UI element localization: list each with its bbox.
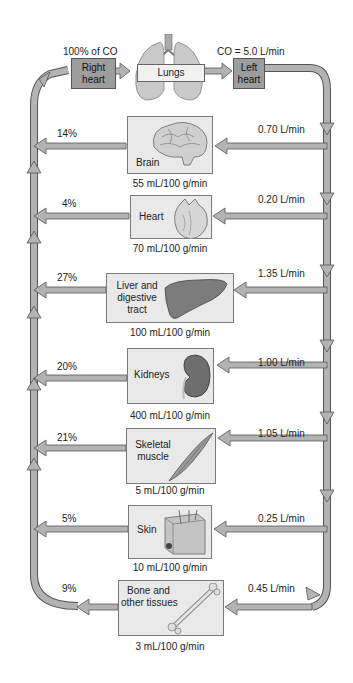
liver-label-line1: Liver and: [111, 280, 163, 292]
skin-label: Skin: [137, 524, 156, 536]
muscle-label: Skeletal muscle: [131, 439, 175, 463]
liver-perfusion: 100 mL/100 g/min: [100, 327, 240, 339]
right-heart-label-line2: heart: [82, 74, 105, 86]
bone-flow: 0.45 L/min: [248, 583, 295, 595]
heart-percent: 4%: [62, 198, 76, 210]
heart-flow: 0.20 L/min: [258, 194, 305, 206]
lungs-box: Lungs: [137, 64, 205, 82]
left-heart-caption: CO = 5.0 L/min: [217, 46, 285, 58]
heart-label: Heart: [139, 211, 163, 223]
right-heart-caption: 100% of CO: [63, 46, 117, 58]
left-heart-box: Left heart: [233, 58, 265, 89]
skin-perfusion: 10 mL/100 g/min: [100, 562, 240, 574]
liver-percent: 27%: [57, 272, 77, 284]
brain-perfusion: 55 mL/100 g/min: [100, 178, 240, 190]
liver-label-line2: digestive: [111, 292, 163, 304]
bone-label-line2: other tissues: [121, 597, 178, 609]
liver-label: Liver and digestive tract: [111, 280, 163, 316]
skin-box: Skin: [128, 505, 212, 559]
bone-box: Bone and other tissues: [118, 580, 224, 636]
bone-label-line1: Bone and: [121, 585, 178, 597]
liver-box: Liver and digestive tract: [106, 273, 234, 323]
liver-flow: 1.35 L/min: [258, 268, 305, 280]
bone-percent: 9%: [62, 583, 76, 595]
kidneys-perfusion: 400 mL/100 g/min: [100, 410, 240, 422]
brain-percent: 14%: [57, 128, 77, 140]
kidneys-label: Kidneys: [134, 369, 170, 381]
skin-percent: 5%: [62, 513, 76, 525]
kidneys-box: Kidneys: [127, 348, 214, 404]
muscle-label-line1: Skeletal: [131, 439, 175, 451]
brain-label: Brain: [136, 157, 159, 169]
brain-box: Brain: [127, 116, 213, 174]
bone-label: Bone and other tissues: [121, 585, 178, 609]
muscle-percent: 21%: [57, 432, 77, 444]
right-heart-box: Right heart: [71, 58, 116, 89]
bone-perfusion: 3 mL/100 g/min: [100, 641, 240, 653]
kidneys-flow: 1.00 L/min: [258, 357, 305, 369]
left-heart-label-line2: heart: [238, 74, 261, 86]
liver-label-line3: tract: [111, 304, 163, 316]
left-heart-label-line1: Left: [241, 62, 258, 74]
heart-box: Heart: [130, 195, 212, 239]
muscle-box: Skeletal muscle: [126, 428, 216, 484]
kidneys-percent: 20%: [57, 361, 77, 373]
heart-perfusion: 70 mL/100 g/min: [100, 243, 240, 255]
kidney-icon: [178, 353, 212, 401]
muscle-perfusion: 5 mL/100 g/min: [100, 485, 240, 497]
skin-icon: [163, 510, 207, 556]
skin-flow: 0.25 L/min: [258, 513, 305, 525]
heart-icon: [171, 197, 211, 239]
muscle-flow: 1.05 L/min: [258, 428, 305, 440]
brain-flow: 0.70 L/min: [258, 124, 305, 136]
liver-icon: [163, 278, 229, 320]
muscle-label-line2: muscle: [131, 451, 175, 463]
right-heart-label-line1: Right: [82, 62, 105, 74]
